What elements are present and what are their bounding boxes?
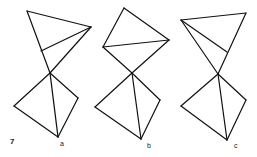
edge-line	[132, 73, 141, 139]
panel-a-drawing	[14, 11, 91, 137]
edge-line	[95, 73, 132, 107]
edge-line	[132, 73, 160, 100]
edge-line	[41, 27, 91, 51]
panel-b-drawing	[95, 8, 169, 139]
edge-line	[14, 106, 58, 137]
edge-line	[181, 13, 246, 20]
edge-line	[218, 13, 246, 74]
edge-line	[227, 100, 246, 140]
edge-line	[181, 74, 218, 106]
edge-line	[14, 73, 50, 106]
edge-line	[103, 47, 132, 73]
edge-line	[27, 11, 50, 73]
panel-label-c: c	[234, 142, 238, 149]
edge-line	[50, 27, 91, 73]
figure-number: 7	[10, 138, 14, 146]
edge-line	[103, 40, 169, 47]
edge-line	[218, 74, 246, 100]
edge-line	[58, 98, 78, 137]
figure-canvas	[0, 0, 257, 157]
edge-line	[95, 107, 141, 139]
edge-line	[141, 100, 160, 139]
edge-line	[218, 74, 227, 140]
edge-line	[181, 20, 218, 74]
edge-line	[50, 73, 58, 137]
panel-label-b: b	[147, 142, 151, 149]
edge-line	[181, 20, 227, 52]
edge-line	[103, 8, 124, 47]
edge-line	[181, 106, 227, 140]
edge-line	[132, 40, 169, 73]
panel-c-drawing	[181, 13, 246, 140]
edge-line	[27, 11, 91, 27]
edge-line	[124, 8, 169, 40]
edge-line	[50, 73, 78, 98]
panel-label-a: a	[60, 140, 64, 147]
